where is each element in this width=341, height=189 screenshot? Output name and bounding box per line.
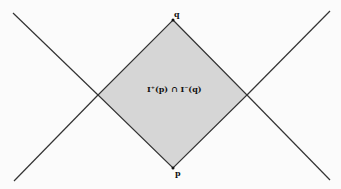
causal-diamond-region	[98, 20, 247, 168]
diagram-canvas: q p I⁺(p) ∩ I⁻(q)	[0, 0, 341, 189]
label-region: I⁺(p) ∩ I⁻(q)	[147, 85, 202, 93]
light-cone-line-descending-right	[247, 95, 330, 180]
light-cone-line-descending	[13, 13, 98, 95]
diagram-svg	[0, 0, 341, 189]
label-q: q	[174, 10, 180, 18]
label-p: p	[175, 169, 181, 177]
light-cone-line-ascending	[14, 95, 98, 181]
light-cone-line-ascending-right	[247, 11, 330, 95]
